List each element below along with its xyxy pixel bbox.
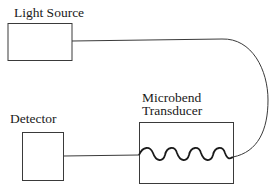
- fiber-transducer-to-detector: [64, 155, 140, 156]
- light-source-label: Light Source: [14, 6, 84, 20]
- transducer-label-line2: Transducer: [142, 104, 202, 118]
- detector-box: [23, 133, 64, 181]
- detector-label: Detector: [10, 112, 56, 126]
- diagram-canvas: [0, 0, 273, 191]
- microbend-wave: [139, 148, 233, 160]
- light-source-box: [8, 24, 72, 61]
